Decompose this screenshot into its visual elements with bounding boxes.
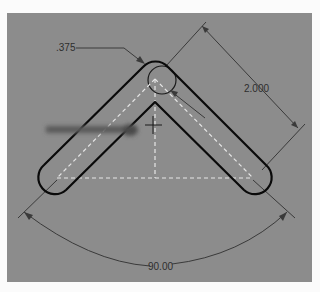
sketch-geometry — [0, 0, 320, 292]
crosshair-icon — [145, 116, 162, 134]
dimension-375-arrow — [136, 56, 145, 64]
dimension-slot-width-label[interactable]: .375 — [56, 43, 75, 53]
angle-arrows — [24, 212, 287, 221]
dimension-arm-length-label[interactable]: 2.000 — [244, 84, 269, 94]
dimension-angle-label[interactable]: 90.00 — [148, 262, 173, 272]
dimension-375-leader — [76, 48, 142, 62]
drag-arrow-icon — [46, 124, 138, 136]
dimension-2000-extension-lines — [166, 22, 305, 170]
inner-leader — [172, 92, 205, 118]
